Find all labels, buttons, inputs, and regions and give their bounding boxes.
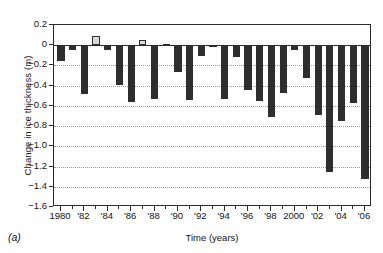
y-tick-label: −0.2 (4, 59, 47, 69)
x-tick-mark-minor (212, 206, 213, 209)
panel-label: (a) (8, 231, 21, 243)
bar (69, 45, 76, 50)
bar (186, 45, 193, 100)
y-tick-label: −1.6 (4, 201, 47, 211)
bar (209, 45, 216, 47)
y-tick-label: −0.6 (4, 100, 47, 110)
bar (221, 45, 228, 99)
x-tick-mark-minor (235, 206, 236, 209)
y-tick-mark (49, 44, 53, 45)
bar (315, 45, 322, 115)
y-tick-label: 0 (4, 39, 47, 49)
bar (280, 45, 287, 93)
bar (256, 45, 263, 101)
bar (326, 45, 333, 171)
bar (104, 45, 111, 50)
y-tick-mark (49, 125, 53, 126)
bar (198, 45, 205, 56)
y-tick-mark (49, 85, 53, 86)
bar (116, 45, 123, 84)
y-tick-mark (49, 105, 53, 106)
x-tick-mark-minor (282, 206, 283, 209)
y-tick-mark (49, 145, 53, 146)
bar (57, 45, 64, 61)
bar (233, 45, 240, 57)
x-tick-mark-minor (118, 206, 119, 209)
bar (338, 45, 345, 121)
y-tick-label: 0.2 (4, 19, 47, 29)
bar (244, 45, 251, 89)
y-tick-label: −0.4 (4, 80, 47, 90)
bars-layer (54, 25, 370, 205)
bar (303, 45, 310, 77)
bar (361, 45, 368, 178)
x-axis-label: Time (years) (53, 232, 371, 243)
y-tick-mark (49, 186, 53, 187)
bar (151, 45, 158, 99)
bar (128, 45, 135, 102)
bar (139, 40, 146, 45)
y-tick-label: −1.0 (4, 140, 47, 150)
figure-panel-a: Change in ice thickness (m) 0.20−0.2−0.4… (0, 0, 383, 253)
x-tick-mark-minor (189, 206, 190, 209)
x-tick-label: '06 (344, 211, 383, 221)
x-tick-mark-minor (329, 206, 330, 209)
bar (174, 45, 181, 71)
y-tick-mark (49, 64, 53, 65)
x-tick-mark-minor (95, 206, 96, 209)
y-tick-label: −1.4 (4, 181, 47, 191)
y-tick-mark (49, 24, 53, 25)
y-tick-label: −1.2 (4, 161, 47, 171)
bar (291, 45, 298, 50)
y-tick-mark (49, 206, 53, 207)
bar (92, 36, 99, 45)
y-axis-label: Change in ice thickness (m) (22, 26, 33, 206)
plot-area (53, 24, 371, 206)
x-tick-mark-minor (142, 206, 143, 209)
bar (163, 44, 170, 46)
y-tick-mark (49, 166, 53, 167)
x-tick-mark-minor (306, 206, 307, 209)
x-tick-mark-minor (259, 206, 260, 209)
bar (81, 45, 88, 94)
y-tick-label: −0.8 (4, 120, 47, 130)
x-tick-mark-minor (352, 206, 353, 209)
x-tick-mark-minor (72, 206, 73, 209)
bar (268, 45, 275, 117)
bar (350, 45, 357, 103)
x-tick-mark-minor (165, 206, 166, 209)
